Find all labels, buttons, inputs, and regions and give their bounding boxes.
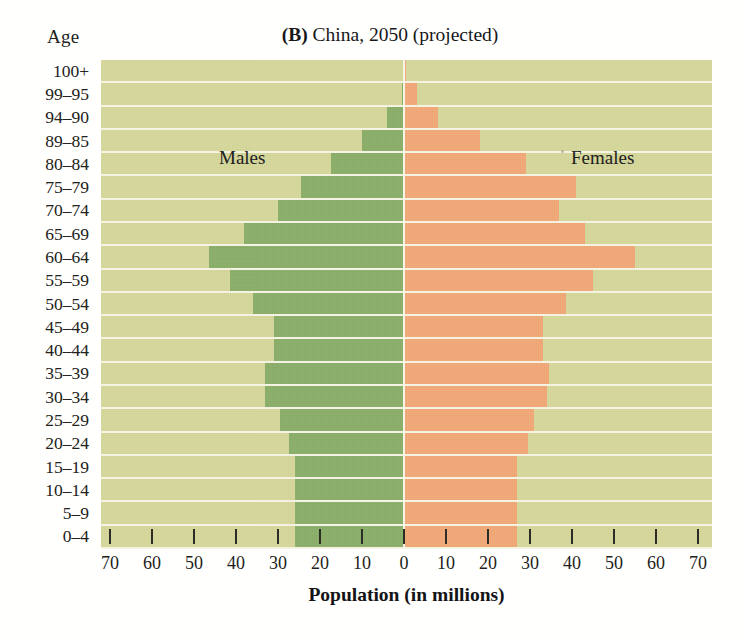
age-label: 60–64 [45, 249, 89, 267]
bar-rows [101, 60, 712, 549]
x-axis-ticks [101, 527, 712, 549]
x-tick [697, 529, 699, 544]
bar-female [404, 456, 517, 477]
x-tick-label: 30 [269, 553, 287, 574]
x-axis-title: Population (in millions) [101, 584, 712, 606]
age-label: 70–74 [45, 202, 89, 220]
age-label: 94–90 [45, 109, 89, 127]
bar-female [404, 293, 566, 314]
age-label: 25–29 [45, 412, 89, 430]
bar-female [404, 130, 480, 151]
bar-female [404, 339, 543, 360]
bar-male [265, 363, 404, 384]
bar-female [404, 316, 543, 337]
x-axis-tick-labels: 70605040302010010203040506070 [101, 553, 712, 579]
bar-male [295, 479, 404, 500]
bar-female [404, 386, 547, 407]
x-tick-label: 20 [311, 553, 329, 574]
bar-row [101, 246, 712, 269]
x-tick-label: 0 [400, 553, 409, 574]
age-label: 35–39 [45, 365, 89, 383]
age-label: 0–4 [63, 528, 89, 546]
paper-speck [561, 150, 564, 153]
age-label: 45–49 [45, 319, 89, 337]
age-label: 10–14 [45, 482, 89, 500]
bar-male [331, 153, 405, 174]
bar-male [274, 339, 404, 360]
chart-title: (B) China, 2050 (projected) [190, 24, 590, 46]
bar-row [101, 200, 712, 223]
bar-row [101, 316, 712, 339]
bar-female [404, 479, 517, 500]
bar-female [404, 246, 635, 267]
bar-male [301, 176, 404, 197]
age-label: 15–19 [45, 459, 89, 477]
x-tick-label: 70 [689, 553, 707, 574]
x-tick [109, 529, 111, 544]
bar-female [404, 433, 528, 454]
x-tick [403, 529, 405, 544]
bar-male [289, 433, 405, 454]
population-pyramid-figure: Age (B) China, 2050 (projected) 100+99–9… [0, 0, 747, 639]
age-axis-header: Age [47, 26, 80, 48]
age-label: 75–79 [45, 179, 89, 197]
age-label: 20–24 [45, 435, 89, 453]
age-label: 99–95 [45, 86, 89, 104]
bar-row [101, 409, 712, 432]
chart-title-text: China, 2050 (projected) [308, 24, 499, 45]
age-label: 50–54 [45, 296, 89, 314]
age-label: 40–44 [45, 342, 89, 360]
bar-female [404, 502, 517, 523]
age-label: 30–34 [45, 389, 89, 407]
bar-male [362, 130, 404, 151]
x-tick-label: 60 [647, 553, 665, 574]
bar-row [101, 456, 712, 479]
bar-female [404, 363, 549, 384]
x-tick [361, 529, 363, 544]
bar-female [404, 223, 585, 244]
bar-male [244, 223, 404, 244]
x-tick-label: 40 [227, 553, 245, 574]
x-tick [277, 529, 279, 544]
age-label: 5–9 [63, 505, 89, 523]
bar-row [101, 363, 712, 386]
x-tick-label: 30 [521, 553, 539, 574]
bar-female [404, 83, 417, 104]
bar-row [101, 176, 712, 199]
panel-letter: (B) [282, 24, 308, 45]
x-tick-label: 50 [185, 553, 203, 574]
bar-row [101, 270, 712, 293]
bar-male [387, 107, 404, 128]
x-tick-label: 50 [605, 553, 623, 574]
bar-row [101, 60, 712, 83]
age-label: 80–84 [45, 156, 89, 174]
age-label: 89–85 [45, 133, 89, 151]
x-tick [487, 529, 489, 544]
bar-male [265, 386, 404, 407]
age-label: 65–69 [45, 226, 89, 244]
bar-row [101, 433, 712, 456]
series-label-females: Females [571, 147, 634, 169]
x-tick [529, 529, 531, 544]
bar-male [253, 293, 404, 314]
bar-female [404, 270, 593, 291]
bar-row [101, 83, 712, 106]
bar-row [101, 502, 712, 525]
age-label: 100+ [53, 63, 89, 81]
bar-female [404, 107, 438, 128]
bar-male [278, 200, 404, 221]
bar-row [101, 223, 712, 246]
x-tick-label: 10 [353, 553, 371, 574]
x-tick-label: 60 [143, 553, 161, 574]
bar-male [295, 502, 404, 523]
bar-male [209, 246, 404, 267]
x-tick-label: 20 [479, 553, 497, 574]
bar-male [274, 316, 404, 337]
x-tick-label: 40 [563, 553, 581, 574]
bar-row [101, 386, 712, 409]
x-tick [571, 529, 573, 544]
plot-area: Males Females [101, 60, 712, 549]
bar-male [230, 270, 404, 291]
x-tick [319, 529, 321, 544]
age-axis-labels: 100+99–9594–9089–8580–8475–7970–7465–696… [0, 60, 96, 549]
